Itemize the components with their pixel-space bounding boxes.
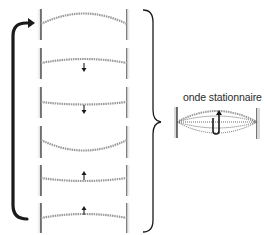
standing-wave-diagram	[0, 0, 265, 235]
arrowhead-icon	[28, 18, 35, 28]
standing-wave	[174, 107, 260, 139]
arrow-down-icon	[82, 63, 87, 72]
arrow-down-icon	[82, 105, 87, 114]
arrow-up-icon	[82, 171, 87, 180]
panel-6	[36, 203, 131, 233]
panel-4	[36, 126, 131, 158]
curly-brace	[143, 10, 161, 232]
panel-3	[36, 87, 131, 118]
standing-wave-label: onde stationnaire	[183, 91, 262, 103]
panel-5	[36, 165, 131, 196]
cycle-arrow	[13, 18, 35, 219]
panel-2	[36, 48, 131, 79]
panel-1	[36, 9, 131, 40]
